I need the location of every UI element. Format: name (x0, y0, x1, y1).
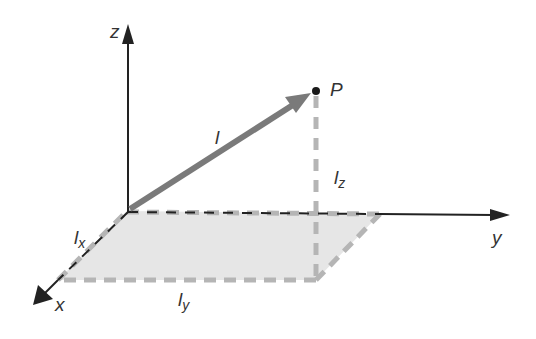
lx-label: lx (74, 228, 85, 250)
lx-label-sub: x (78, 235, 85, 251)
vector-l (130, 93, 311, 209)
point-p-label: P (330, 80, 343, 99)
y-axis-label: y (492, 228, 502, 247)
x-axis-label: x (55, 295, 65, 314)
lz-label: lz (334, 168, 345, 190)
z-axis-label: z (110, 22, 120, 41)
ly-label-sub: y (182, 297, 189, 313)
lz-label-sub: z (338, 175, 345, 191)
z-axis (122, 24, 134, 212)
y-arrowhead-icon (490, 209, 510, 221)
xy-plane-projection (58, 211, 380, 280)
z-arrowhead-icon (122, 24, 134, 44)
point-p-dot (312, 87, 320, 95)
vector-l-label: l (215, 128, 219, 147)
vector-diagram (0, 0, 536, 339)
ly-label: ly (178, 290, 189, 312)
